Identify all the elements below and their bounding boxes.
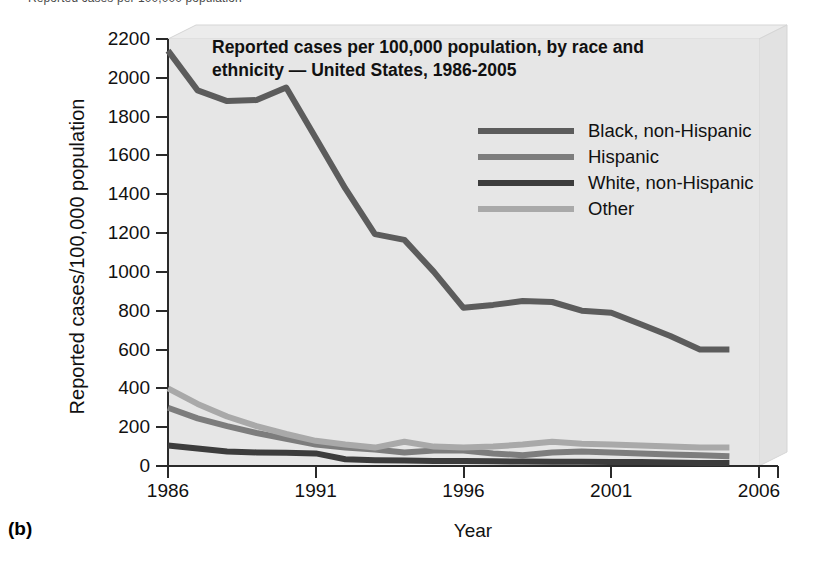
legend-label: Black, non-Hispanic xyxy=(588,120,752,142)
legend-item: White, non-Hispanic xyxy=(478,170,754,196)
x-tick-label: 1986 xyxy=(123,480,213,502)
y-tick-label: 2200 xyxy=(80,28,150,50)
y-tick-label: 2000 xyxy=(80,67,150,89)
y-tick-label: 1400 xyxy=(80,183,150,205)
legend-item: Other xyxy=(478,196,754,222)
legend-label: Other xyxy=(588,198,634,220)
x-tick-mark xyxy=(315,466,317,478)
legend-swatch xyxy=(478,180,574,186)
y-tick-mark xyxy=(156,154,168,156)
y-tick-label: 1600 xyxy=(80,144,150,166)
plot-box-right-face xyxy=(759,25,787,466)
y-tick-label: 400 xyxy=(80,377,150,399)
x-tick-label: 2001 xyxy=(566,480,656,502)
legend-item: Hispanic xyxy=(478,144,754,170)
figure-panel-b: Reported cases per 100,000 population 02… xyxy=(0,0,825,577)
y-tick-label: 600 xyxy=(80,339,150,361)
y-tick-mark xyxy=(156,77,168,79)
x-tick-label: 1991 xyxy=(271,480,361,502)
chart-title: Reported cases per 100,000 population, b… xyxy=(212,36,644,83)
x-tick-label: 2006 xyxy=(714,480,804,502)
y-tick-mark xyxy=(156,271,168,273)
x-axis-title: Year xyxy=(168,520,778,542)
legend-swatch xyxy=(478,206,574,212)
x-tick-label: 1996 xyxy=(419,480,509,502)
legend-item: Black, non-Hispanic xyxy=(478,118,754,144)
x-tick-mark xyxy=(758,466,760,478)
y-tick-mark xyxy=(156,349,168,351)
y-tick-mark xyxy=(156,310,168,312)
legend-label: White, non-Hispanic xyxy=(588,172,754,194)
legend-label: Hispanic xyxy=(588,146,659,168)
y-tick-label: 200 xyxy=(80,416,150,438)
y-tick-label: 1200 xyxy=(80,222,150,244)
y-tick-mark xyxy=(156,193,168,195)
y-axis-title: Reported cases/100,000 population xyxy=(66,37,89,477)
y-tick-label: 1000 xyxy=(80,261,150,283)
y-tick-mark xyxy=(156,387,168,389)
y-tick-label: 800 xyxy=(80,300,150,322)
chart-legend: Black, non-HispanicHispanicWhite, non-Hi… xyxy=(478,118,754,222)
x-tick-mark xyxy=(610,466,612,478)
y-tick-mark xyxy=(156,426,168,428)
panel-letter: (b) xyxy=(8,518,32,540)
legend-swatch xyxy=(478,128,574,134)
y-tick-mark xyxy=(156,232,168,234)
y-tick-label: 1800 xyxy=(80,106,150,128)
y-tick-mark xyxy=(156,116,168,118)
y-tick-label: 0 xyxy=(80,455,150,477)
legend-swatch xyxy=(478,154,574,160)
y-tick-mark xyxy=(156,38,168,40)
x-tick-mark xyxy=(463,466,465,478)
x-tick-mark xyxy=(167,466,169,478)
